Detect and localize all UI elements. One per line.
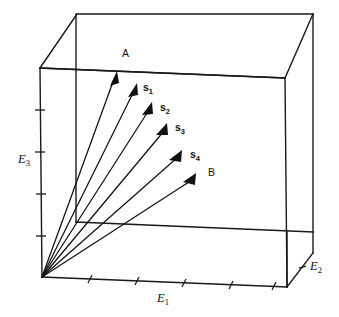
vector-label-s1-sub: 1: [149, 87, 153, 96]
vector-label-s2-sub: 2: [166, 107, 170, 116]
vector-label-s4-sub: 4: [196, 154, 201, 163]
axis-label-e2-sub: 2: [318, 265, 322, 275]
vector-s3-arrowhead: [156, 123, 168, 135]
axis-label-e2: E2: [309, 259, 322, 275]
vector-label-s2: s2: [160, 101, 170, 116]
vector-s4: [42, 150, 182, 277]
cube-edge-back-top-horizontal: [40, 68, 285, 78]
vector-B-shaft: [42, 180, 192, 277]
cube-edge-left-vertical: [40, 68, 42, 277]
vector-s3: [42, 123, 168, 277]
cube-wireframe: [40, 14, 313, 287]
vector-cube-diagram: A s1 s2 s3 s4 B E3 E1 E2: [0, 0, 339, 317]
vector-label-s3: s3: [175, 121, 185, 136]
vector-label-B: B: [208, 166, 215, 178]
axis-labels: E3 E1 E2: [17, 152, 322, 307]
vector-s4-arrowhead: [169, 150, 182, 162]
vector-B: [42, 173, 196, 277]
vector-s4-shaft: [42, 157, 178, 277]
axis-label-e3-sub: 3: [26, 158, 30, 168]
vector-A-shaft: [42, 79, 114, 277]
vector-label-A: A: [122, 47, 129, 59]
axis-label-e2-base: E: [309, 259, 318, 273]
vector-A-arrowhead: [110, 71, 119, 86]
axis-label-e1-sub: 1: [165, 297, 169, 307]
vector-s2-shaft: [42, 110, 149, 277]
cube-top-face-edge: [40, 14, 313, 78]
vector-label-s1: s1: [143, 81, 153, 96]
vector-labels: A s1 s2 s3 s4 B: [122, 47, 215, 178]
axis-label-e3: E3: [17, 152, 30, 168]
vector-label-s3-sub: 3: [181, 127, 185, 136]
vector-s2: [42, 102, 153, 277]
cube-edge-bottom-front: [42, 277, 287, 287]
vector-B-arrowhead: [183, 173, 196, 185]
axis-label-e1-base: E: [156, 291, 165, 305]
cube-inner-floor-line: [76, 222, 313, 232]
axis-label-e3-base: E: [17, 152, 26, 166]
figure-container: A s1 s2 s3 s4 B E3 E1 E2: [0, 0, 339, 317]
vector-label-s4: s4: [190, 148, 201, 163]
vector-fan: [42, 71, 196, 277]
vector-s2-arrowhead: [142, 102, 153, 115]
axis-label-e1: E1: [156, 291, 169, 307]
vector-s1-arrowhead: [128, 83, 138, 97]
